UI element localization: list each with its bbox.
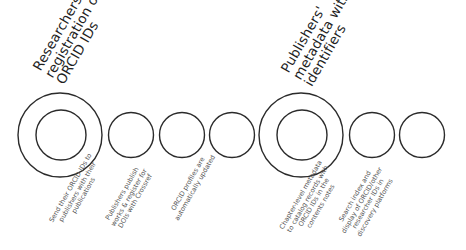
publishers-inner-circle — [277, 110, 327, 160]
step-circle-send-orcid — [109, 113, 154, 158]
step-circle-publish-register — [160, 113, 205, 158]
orcid-workflow-diagram: Researchers' registration of ORCID IDs S… — [0, 0, 466, 250]
step-circle-search-index — [400, 113, 445, 158]
researchers-inner-circle — [36, 110, 86, 160]
step-circle-orcid-updated — [210, 113, 255, 158]
publishers-outer-circle — [259, 93, 343, 177]
step-circle-chapter-metadata — [350, 113, 395, 158]
